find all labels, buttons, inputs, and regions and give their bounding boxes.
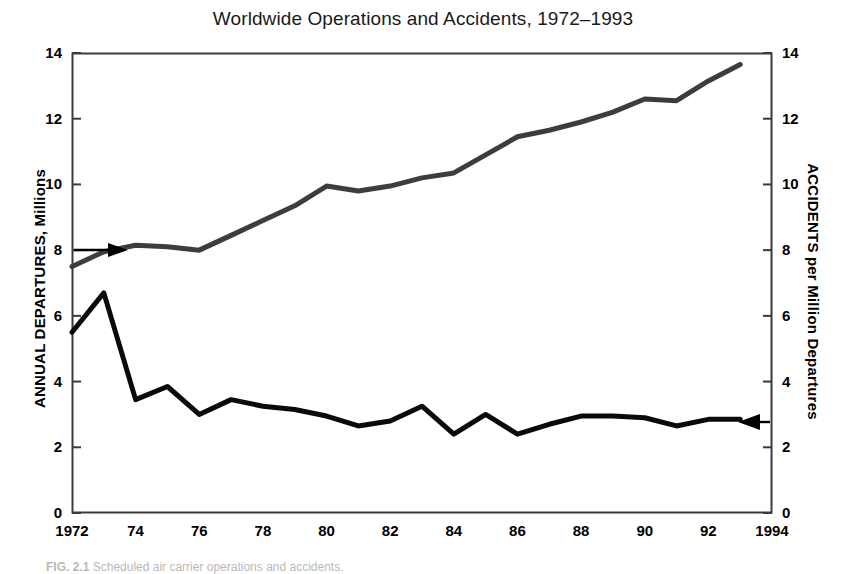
- right-axis-tick-label: 8: [782, 241, 812, 258]
- right-axis-tick-label: 12: [782, 110, 812, 127]
- left-axis-tick-label: 6: [32, 307, 62, 324]
- right-axis-tick-label: 14: [782, 44, 812, 61]
- left-axis-tick-label: 4: [32, 373, 62, 390]
- right-axis-tick-label: 2: [782, 438, 812, 455]
- x-axis-tick-label: 86: [487, 522, 547, 539]
- x-axis-tick-label: 88: [551, 522, 611, 539]
- x-axis-tick-label: 84: [424, 522, 484, 539]
- caption-label: FIG. 2.1: [46, 560, 89, 574]
- x-axis-tick-label: 76: [169, 522, 229, 539]
- left-axis-tick-label: 10: [32, 175, 62, 192]
- left-axis-tick-label: 0: [32, 504, 62, 521]
- left-axis-tick-label: 14: [32, 44, 62, 61]
- plot-frame: [73, 54, 772, 513]
- caption-text: Scheduled air carrier operations and acc…: [93, 560, 344, 574]
- x-axis-tick-label: 74: [106, 522, 166, 539]
- x-axis-tick-label: 90: [615, 522, 675, 539]
- left-axis-tick-label: 8: [32, 241, 62, 258]
- right-axis-tick-label: 10: [782, 175, 812, 192]
- left-axis-tick-label: 12: [32, 110, 62, 127]
- left-axis-title: ANNUAL DEPARTURES, Millions: [31, 124, 48, 454]
- x-axis-tick-label: 82: [360, 522, 420, 539]
- right-axis-tick-label: 0: [782, 504, 812, 521]
- x-axis-tick-label: 1994: [742, 522, 802, 539]
- right-axis-tick-label: 6: [782, 307, 812, 324]
- x-axis-tick-label: 1972: [42, 522, 102, 539]
- right-axis-tick-label: 4: [782, 373, 812, 390]
- figure-caption: FIG. 2.1 Scheduled air carrier operation…: [46, 560, 806, 574]
- x-axis-tick-label: 78: [233, 522, 293, 539]
- x-axis-tick-label: 80: [297, 522, 357, 539]
- x-axis-tick-label: 92: [678, 522, 738, 539]
- left-axis-tick-label: 2: [32, 438, 62, 455]
